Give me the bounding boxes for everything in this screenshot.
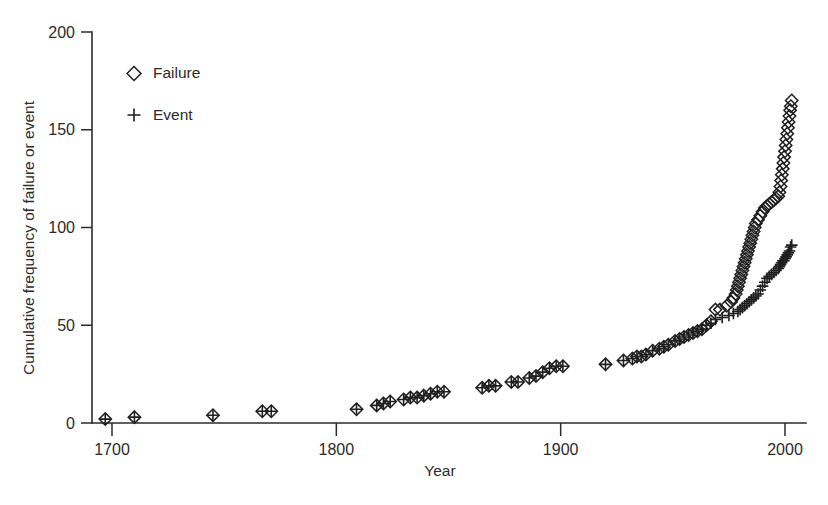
data-point-event <box>600 359 612 371</box>
data-point-event <box>476 382 488 394</box>
scatter-plot-svg: 050100150200 1700180019002000 Year Cumul… <box>0 0 828 505</box>
data-point-failure <box>768 194 780 206</box>
data-point-event <box>384 396 396 408</box>
plus-icon <box>128 109 141 122</box>
legend-entry-failure: Failure <box>127 64 200 81</box>
data-point-event <box>265 405 277 417</box>
x-tick-label: 1700 <box>94 441 130 458</box>
data-point-event <box>207 409 219 421</box>
x-axis-ticks: 1700180019002000 <box>94 423 803 458</box>
data-point-event <box>371 400 383 412</box>
series-failure-markers <box>99 94 798 425</box>
data-point-event <box>351 404 363 416</box>
y-tick-label: 200 <box>48 24 75 41</box>
x-tick-label: 1800 <box>319 441 355 458</box>
data-point-failure <box>765 196 777 208</box>
data-point-event <box>129 411 141 423</box>
y-tick-label: 0 <box>66 415 75 432</box>
x-tick-label: 1900 <box>543 441 579 458</box>
x-tick-label: 2000 <box>767 441 803 458</box>
series-event-markers <box>99 239 797 425</box>
diamond-icon <box>127 67 141 81</box>
data-point-event <box>425 388 437 400</box>
data-point-event <box>398 394 410 406</box>
legend-label-failure: Failure <box>153 64 200 81</box>
y-axis-ticks: 050100150200 <box>48 24 92 432</box>
chart-legend: Failure Event <box>127 64 200 123</box>
data-point-event <box>523 372 535 384</box>
y-tick-label: 150 <box>48 121 75 138</box>
x-axis-title: Year <box>424 462 455 479</box>
legend-entry-event: Event <box>128 106 194 123</box>
data-point-event <box>378 398 390 410</box>
chart-figure: 050100150200 1700180019002000 Year Cumul… <box>0 0 828 505</box>
data-point-event <box>418 390 430 402</box>
y-tick-label: 50 <box>57 317 75 334</box>
y-tick-label: 100 <box>48 219 75 236</box>
y-axis-title: Cumulative frequency of failure or event <box>20 100 37 375</box>
legend-label-event: Event <box>153 106 193 123</box>
